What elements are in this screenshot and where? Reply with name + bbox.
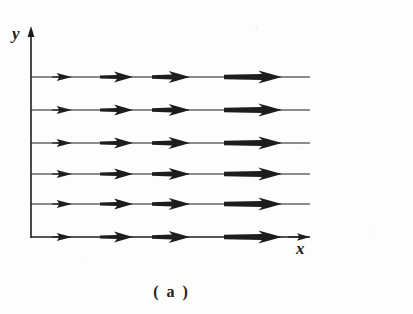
streamlines-group — [31, 77, 310, 237]
field-arrow — [224, 137, 282, 150]
figure-panel: y x ( a ) — [0, 0, 413, 314]
axes-group — [28, 26, 35, 238]
field-arrow — [52, 200, 72, 208]
figure-caption-text: ( a ) — [153, 283, 190, 300]
field-arrow — [224, 198, 282, 211]
field-arrow — [100, 199, 133, 210]
field-arrow — [100, 232, 133, 243]
field-arrow — [100, 105, 133, 116]
field-arrow — [100, 138, 133, 149]
y-axis-label: y — [12, 25, 20, 42]
arrows-group — [52, 71, 310, 244]
figure-caption: ( a ) — [0, 283, 413, 301]
field-arrow — [52, 233, 72, 241]
field-arrow — [224, 71, 282, 84]
field-arrow — [152, 71, 190, 83]
field-arrow — [52, 73, 72, 81]
x-axis-label: x — [296, 240, 305, 257]
field-arrow — [52, 139, 72, 147]
field-arrow — [224, 168, 282, 181]
vector-field-canvas — [0, 0, 413, 314]
field-arrow — [52, 106, 72, 114]
field-arrow — [52, 170, 72, 178]
field-arrow — [224, 231, 282, 244]
field-arrow — [152, 231, 190, 243]
y-axis-arrowhead — [28, 26, 35, 37]
field-arrow — [152, 198, 190, 210]
field-arrow — [152, 104, 190, 116]
field-arrow — [224, 104, 282, 117]
field-arrow — [152, 168, 190, 180]
field-arrow — [100, 169, 133, 180]
field-arrow — [100, 72, 133, 83]
field-arrow — [152, 137, 190, 149]
